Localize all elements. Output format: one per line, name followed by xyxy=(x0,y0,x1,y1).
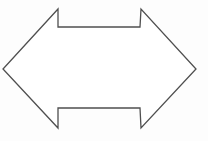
shape-canvas-svg xyxy=(0,0,208,141)
double-headed-arrow-shape[interactable] xyxy=(3,9,196,128)
drawing-canvas xyxy=(0,0,208,141)
